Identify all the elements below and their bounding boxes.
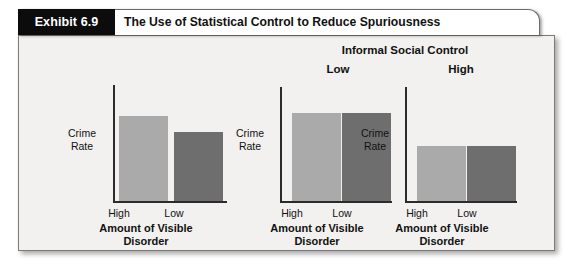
chart-1-x-axis-label-line2: Disorder xyxy=(66,235,226,248)
informal-social-control-low-label: Low xyxy=(286,63,390,75)
chart-3-x-axis xyxy=(405,201,517,203)
chart-2-y-axis-label: Crime Rate xyxy=(224,127,276,152)
chart-1-x-axis-label: Amount of Visible Disorder xyxy=(66,222,226,248)
chart-3-y-axis-label-line1: Crime xyxy=(349,127,401,140)
chart-1-y-axis-label: Crime Rate xyxy=(56,127,108,152)
chart-2-tick-high: High xyxy=(272,207,312,219)
chart-3-x-axis-label-line2: Disorder xyxy=(362,235,522,248)
chart-total-sample: Crime Rate xyxy=(56,85,236,205)
chart-3-y-axis xyxy=(405,87,407,202)
chart-2-y-axis xyxy=(280,87,282,202)
chart-1-x-axis-label-line1: Amount of Visible xyxy=(66,222,226,235)
chart-2-tick-low: Low xyxy=(322,207,362,219)
chart-3-tick-low: Low xyxy=(447,207,487,219)
chart-1-tick-low: Low xyxy=(154,207,194,219)
chart-1-y-axis-label-line2: Rate xyxy=(56,140,108,153)
chart-high-informal-social-control: Crime Rate xyxy=(349,85,539,205)
chart-2-bar-high xyxy=(292,113,341,201)
chart-3-y-axis-label: Crime Rate xyxy=(349,127,401,152)
informal-social-control-high-label: High xyxy=(406,63,516,75)
chart-3-y-axis-label-line2: Rate xyxy=(349,140,401,153)
chart-1-bar-low xyxy=(174,132,223,201)
chart-3-bar-high xyxy=(417,146,466,201)
chart-3-bar-low xyxy=(467,146,516,201)
chart-3-x-axis-label: Amount of Visible Disorder xyxy=(362,222,522,248)
chart-2-y-axis-label-line1: Crime xyxy=(224,127,276,140)
chart-1-tick-high: High xyxy=(99,207,139,219)
chart-1-y-axis xyxy=(113,85,115,202)
chart-2-y-axis-label-line2: Rate xyxy=(224,140,276,153)
exhibit-figure: Exhibit 6.9 The Use of Statistical Contr… xyxy=(0,0,570,270)
chart-1-bar-high xyxy=(119,116,168,201)
chart-1-y-axis-label-line1: Crime xyxy=(56,127,108,140)
exhibit-title: The Use of Statistical Control to Reduce… xyxy=(124,9,440,35)
exhibit-number-badge: Exhibit 6.9 xyxy=(18,9,115,35)
chart-1-x-axis xyxy=(113,201,227,203)
chart-3-x-axis-label-line1: Amount of Visible xyxy=(362,222,522,235)
informal-social-control-heading: Informal Social Control xyxy=(280,44,530,56)
chart-3-tick-high: High xyxy=(397,207,437,219)
